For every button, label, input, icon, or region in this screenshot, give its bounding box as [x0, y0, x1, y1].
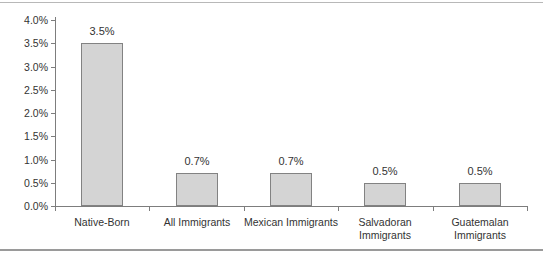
x-axis-tick: [55, 207, 56, 211]
y-axis-tick-label: 2.5%: [10, 84, 48, 96]
y-axis-tick: [51, 183, 55, 184]
x-axis-tick: [244, 207, 245, 211]
y-axis-line: [55, 17, 56, 206]
top-rule: [0, 2, 543, 3]
y-axis-tick-label: 1.5%: [10, 130, 48, 142]
bar-value-label: 0.7%: [261, 155, 321, 168]
x-axis-tick: [433, 207, 434, 211]
y-axis-tick-label: 0.0%: [10, 200, 48, 212]
y-axis-tick-label: 3.5%: [10, 37, 48, 49]
bar-value-label: 0.5%: [450, 165, 510, 178]
y-axis-tick: [51, 90, 55, 91]
bar-0: [81, 43, 123, 206]
category-label: Guatemalan Immigrants: [420, 216, 540, 242]
x-axis-tick: [338, 207, 339, 211]
y-axis-tick: [51, 160, 55, 161]
y-axis-tick-label: 2.0%: [10, 107, 48, 119]
bar-1: [176, 173, 218, 206]
bar-value-label: 0.7%: [167, 155, 227, 168]
y-axis-tick-label: 0.5%: [10, 177, 48, 189]
y-axis-tick: [51, 67, 55, 68]
y-axis-tick: [51, 43, 55, 44]
bar-3: [364, 183, 406, 206]
x-axis-line: [55, 206, 528, 207]
x-axis-tick: [527, 207, 528, 211]
y-axis-tick-label: 4.0%: [10, 14, 48, 26]
bar-4: [459, 183, 501, 206]
bottom-rule: [0, 249, 543, 251]
y-axis-tick: [51, 113, 55, 114]
y-axis-tick: [51, 20, 55, 21]
bar-value-label: 0.5%: [355, 165, 415, 178]
y-axis-tick: [51, 136, 55, 137]
y-axis-tick-label: 3.0%: [10, 61, 48, 73]
x-axis-tick: [149, 207, 150, 211]
bar-value-label: 3.5%: [72, 25, 132, 38]
bar-chart-figure: 0.0%0.5%1.0%1.5%2.0%2.5%3.0%3.5%4.0%3.5%…: [0, 0, 543, 257]
y-axis-tick-label: 1.0%: [10, 154, 48, 166]
bar-2: [270, 173, 312, 206]
